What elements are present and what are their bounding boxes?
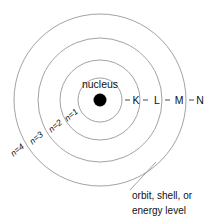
nucleus-dot <box>94 94 107 107</box>
shell-letter-l: L <box>154 94 160 106</box>
shell-letter-n: N <box>196 94 204 106</box>
shell-number-n2: n=2 <box>46 117 64 134</box>
nucleus-label: nucleus <box>82 78 118 90</box>
bohr-model-svg: nucleus K L M N n=1 n=2 n=3 n=4 orbit, s… <box>0 0 206 224</box>
shell-number-n4: n=4 <box>8 141 26 158</box>
shell-number-n1: n=1 <box>62 106 80 123</box>
bohr-model-diagram: nucleus K L M N n=1 n=2 n=3 n=4 orbit, s… <box>0 0 206 224</box>
shell-number-n3: n=3 <box>27 129 45 146</box>
shell-letter-k: K <box>132 94 139 106</box>
annotation-leader-line <box>130 162 156 190</box>
annotation-line-2: energy level <box>132 205 186 216</box>
shell-letter-m: M <box>175 94 184 106</box>
annotation-line-1: orbit, shell, or <box>132 190 193 201</box>
